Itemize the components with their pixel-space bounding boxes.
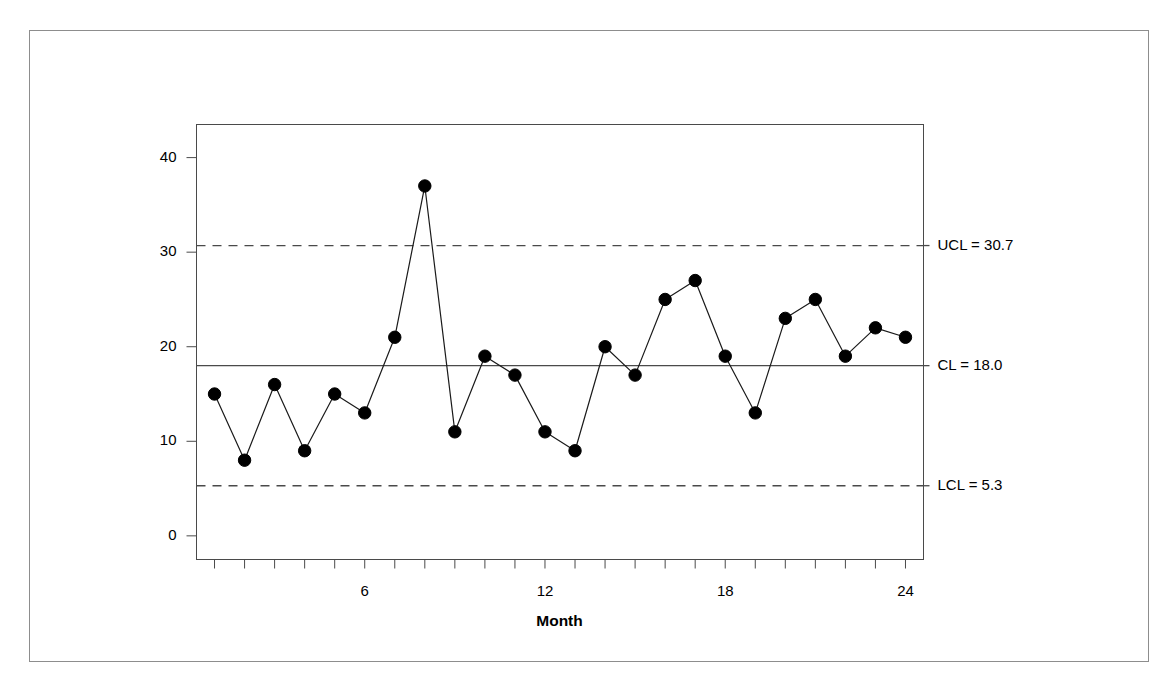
- plot-border: [197, 125, 924, 560]
- data-polyline: [215, 186, 906, 460]
- x-tick-label-6: 6: [340, 582, 390, 599]
- data-point-month-17: [689, 274, 701, 286]
- y-tick-label-30: 30: [137, 242, 177, 259]
- data-point-month-12: [539, 426, 551, 438]
- data-point-month-2: [238, 454, 250, 466]
- figure-page: Number of Anesthesia Narcotics Discrepan…: [0, 0, 1174, 699]
- control-limit-label-ucl: UCL = 30.7: [938, 236, 1014, 253]
- data-point-month-20: [779, 312, 791, 324]
- data-point-month-6: [359, 407, 371, 419]
- data-point-month-3: [268, 378, 280, 390]
- data-point-month-19: [749, 407, 761, 419]
- x-axis-title: Month: [196, 612, 923, 630]
- data-point-month-14: [599, 341, 611, 353]
- data-series-line: [215, 186, 906, 460]
- control-limit-label-lcl: LCL = 5.3: [938, 476, 1003, 493]
- data-point-month-7: [389, 331, 401, 343]
- data-series-markers: [208, 180, 911, 467]
- y-tick-label-40: 40: [137, 148, 177, 165]
- y-tick-label-0: 0: [137, 526, 177, 543]
- control-chart: Number of Anesthesia Narcotics Discrepan…: [0, 0, 1174, 699]
- data-point-month-22: [839, 350, 851, 362]
- data-point-month-4: [298, 445, 310, 457]
- control-limit-label-cl: CL = 18.0: [938, 356, 1003, 373]
- data-point-month-10: [479, 350, 491, 362]
- data-point-month-11: [509, 369, 521, 381]
- x-tick-label-12: 12: [520, 582, 570, 599]
- x-tick-label-24: 24: [880, 582, 930, 599]
- data-point-month-16: [659, 293, 671, 305]
- y-tick-label-20: 20: [137, 337, 177, 354]
- data-point-month-1: [208, 388, 220, 400]
- y-tick-label-10: 10: [137, 431, 177, 448]
- data-point-month-15: [629, 369, 641, 381]
- x-tick-label-18: 18: [700, 582, 750, 599]
- data-point-month-24: [899, 331, 911, 343]
- data-point-month-9: [449, 426, 461, 438]
- axis-ticks: [187, 158, 906, 569]
- data-point-month-18: [719, 350, 731, 362]
- plot-frame: [197, 125, 924, 560]
- data-point-month-23: [869, 322, 881, 334]
- data-point-month-5: [328, 388, 340, 400]
- data-point-month-13: [569, 445, 581, 457]
- data-point-month-21: [809, 293, 821, 305]
- data-point-month-8: [419, 180, 431, 192]
